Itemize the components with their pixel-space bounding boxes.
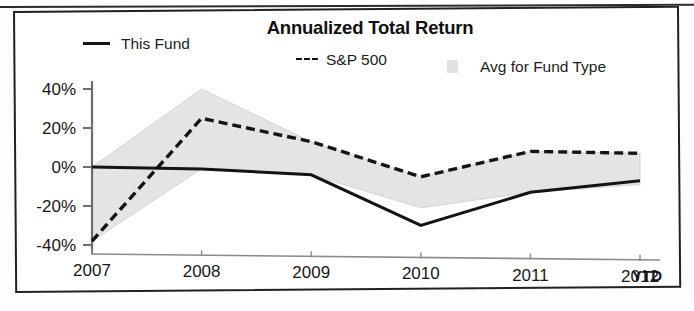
x-axis-suffix-label: YTD [632,267,662,284]
y-axis-tick-label: 40% [42,80,76,99]
y-axis-tick-label: 0% [51,158,76,177]
chart-page: Annualized Total Return This Fund S&P 50… [0,0,694,311]
y-axis-tick-label: -20% [36,197,76,216]
scan-edge-bottom [0,301,694,311]
x-axis-tick-label: 2011 [512,266,549,285]
x-axis-tick-label: 2009 [292,263,330,282]
x-axis-tick-label: 2008 [183,262,221,281]
band-avg-for-fund-type [92,89,640,241]
y-axis-tick-label: 20% [42,119,76,138]
chart-card: Annualized Total Return This Fund S&P 50… [13,6,681,293]
x-axis-tick-label: 2007 [73,261,111,280]
y-axis-tick-label: -40% [36,236,76,255]
x-axis-line [92,254,660,260]
x-axis-tick-label: 2010 [402,264,440,283]
line-chart-plot: 40%20%0%-20%-40%200720082009201020112012 [15,13,677,291]
chart-card-content: Annualized Total Return This Fund S&P 50… [15,13,677,291]
